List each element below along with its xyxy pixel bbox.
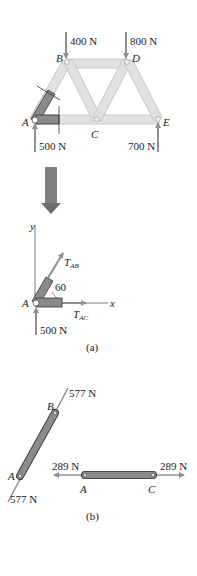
ac-label-c: C [148,483,156,495]
transition-arrow [41,167,61,214]
truss-diagram: 400 N 800 N 500 N 700 N B D A C E y x 60… [0,0,197,576]
pin-a [32,117,38,123]
joint-label-b: B [56,52,63,64]
fbd-members: 577 N 577 N B A 289 N 289 N A C (b) [7,387,187,523]
ac-force-right-label: 289 N [160,460,187,472]
load-label-b: 400 N [70,35,97,47]
reaction-label-a: 500 N [39,140,66,152]
tab-label: TAB [64,256,79,270]
load-label-d: 800 N [130,35,157,47]
ab-force-top-label: 577 N [69,387,96,399]
tab-force-arrow [48,253,63,278]
fbd-joint-a: y x 60 500 N A TAB TAC (a) [21,220,115,354]
joint-label-a-fbd: A [21,297,29,309]
caption-a: (a) [86,341,99,354]
joint-label-d: D [131,52,140,64]
x-axis-label: x [109,297,115,309]
pin-d [125,60,130,65]
y-axis-label: y [29,220,35,232]
pin-b [65,60,70,65]
member-ac-section [36,115,59,124]
joint-label-a: A [21,116,29,128]
ac-force-left-label: 289 N [52,460,79,472]
reaction-label-a-fbd: 500 N [40,324,67,336]
member-ab-fbd [18,411,57,478]
angle-label: 60 [55,281,67,293]
ab-label-a: A [7,470,15,482]
member-de [124,59,162,121]
pin-c [95,117,100,122]
joint-label-e: E [162,116,170,128]
joint-label-c: C [91,128,99,140]
member-ac-fbd [83,473,155,477]
reaction-label-e: 700 N [128,140,155,152]
tac-label: TAC [73,308,88,322]
pin-a-fbd [33,300,39,306]
ac-label-a: A [79,483,87,495]
caption-b: (b) [86,510,99,523]
ab-force-bottom-label: 577 N [10,493,37,505]
member-ac-stub [36,298,62,307]
pin-e [156,117,161,122]
truss: 400 N 800 N 500 N 700 N B D A C E [21,32,170,152]
ab-label-b: B [47,400,54,412]
